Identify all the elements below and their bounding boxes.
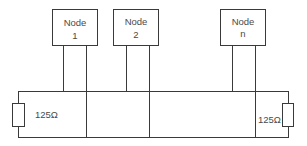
node-2-label: Node: [125, 16, 148, 27]
terminator-left: 125Ω: [13, 91, 58, 138]
terminator-left-label: 125Ω: [35, 109, 58, 120]
node-2-number: 2: [133, 29, 138, 40]
bus-diagram: 125Ω 125Ω Node 1 Node 2 Node n: [0, 0, 307, 146]
terminator-right: 125Ω: [258, 91, 294, 138]
node-1: Node 1: [53, 10, 98, 139]
resistor-icon: [13, 104, 25, 127]
node-box: [114, 10, 159, 46]
resistor-icon: [283, 104, 294, 127]
node-n-number: n: [240, 28, 245, 39]
node-1-label: Node: [64, 17, 87, 28]
node-1-number: 1: [72, 30, 77, 41]
node-n-label: Node: [232, 16, 255, 27]
terminator-right-label: 125Ω: [258, 114, 281, 125]
node-2: Node 2: [114, 10, 159, 139]
